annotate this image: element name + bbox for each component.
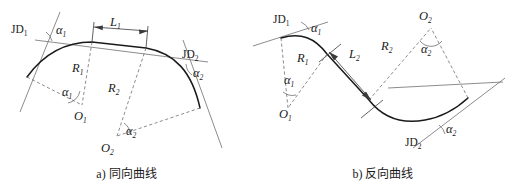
tangent-line-jd2-common <box>388 82 503 88</box>
label-jd1: JD1 <box>273 13 290 28</box>
caption-panel-a: a) 同向曲线 <box>0 164 253 182</box>
label-jd2: JD2 <box>405 136 422 151</box>
label-alpha2-center: α2 <box>126 124 137 140</box>
curve-diagram-figure: JD1 α1 L1 R1 α1 O1 R2 α2 O2 JD2 α2 <box>0 0 513 190</box>
angle-arc-alpha1-center <box>283 92 296 95</box>
label-r1: R1 <box>71 61 83 77</box>
label-alpha2-right: α2 <box>193 66 204 82</box>
label-alpha2-top: α2 <box>421 42 432 58</box>
radius-line-r1 <box>82 42 92 105</box>
label-alpha1-center: α1 <box>284 73 294 89</box>
radius-line-o2-end <box>431 28 468 98</box>
dim-arrow-left <box>94 25 103 30</box>
label-o2: O2 <box>419 9 432 25</box>
caption-panel-b: b) 反向曲线 <box>253 164 513 182</box>
label-r2: R2 <box>380 39 393 55</box>
dim-ext-left <box>92 22 94 42</box>
label-r2: R2 <box>107 81 120 97</box>
label-o1: O1 <box>74 109 87 125</box>
radius-line-r2 <box>117 48 146 136</box>
label-r1: R1 <box>296 51 308 67</box>
label-alpha1-top: α1 <box>56 23 66 39</box>
diagram-panel-a: JD1 α1 L1 R1 α1 O1 R2 α2 O2 JD2 α2 <box>0 0 253 160</box>
label-o2: O2 <box>101 141 114 157</box>
label-l1: L1 <box>109 15 121 31</box>
alignment-curve <box>27 42 200 108</box>
dim-arrow-upper <box>329 52 338 61</box>
label-alpha2-bottom: α2 <box>446 122 457 138</box>
dim-ext-right <box>146 26 148 48</box>
label-alpha1-top: α1 <box>311 21 321 37</box>
diagram-panel-b: JD1 α1 R1 α1 O1 L2 R2 O2 α2 JD2 α2 <box>253 0 513 160</box>
dim-arrow-right <box>139 29 148 34</box>
label-l2: L2 <box>348 47 360 63</box>
radius-line-r2 <box>369 28 431 100</box>
label-o1: O1 <box>279 107 292 123</box>
label-jd1: JD1 <box>11 23 28 38</box>
tangent-line-jd2-forward <box>413 78 505 148</box>
label-alpha1-center: α1 <box>62 85 72 101</box>
